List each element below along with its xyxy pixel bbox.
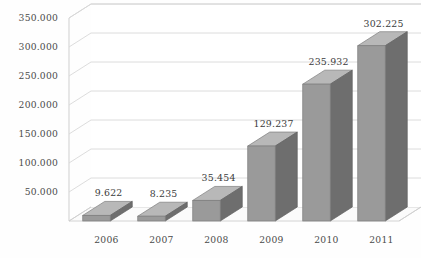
bar-chart-3d: 50.000100.000150.000200.000250.000300.00… xyxy=(0,0,421,258)
bar-front-face-2 xyxy=(193,200,221,221)
gridline-riser-3 xyxy=(69,91,91,105)
bar-side-face-5 xyxy=(385,32,407,221)
y-axis-tick-label-4: 250.000 xyxy=(19,70,58,81)
bar-value-label-2006: 9.622 xyxy=(95,187,123,198)
bar-front-face-0 xyxy=(83,215,111,221)
bar-front-face-4 xyxy=(303,84,331,221)
bar-value-label-2007: 8.235 xyxy=(150,188,178,199)
gridline-riser-6 xyxy=(69,4,91,18)
bar-side-face-4 xyxy=(330,70,352,221)
y-axis-tick-label-1: 100.000 xyxy=(19,157,58,168)
x-axis-tick-label-2007: 2007 xyxy=(149,234,173,245)
x-axis-tick-label-2006: 2006 xyxy=(94,234,118,245)
bar-value-label-2011: 302.225 xyxy=(364,18,404,29)
y-axis-tick-label-2: 150.000 xyxy=(19,128,58,139)
bar-2009[interactable] xyxy=(248,132,298,221)
gridline-riser-4 xyxy=(69,62,91,76)
gridline-riser-1 xyxy=(69,149,91,163)
x-axis-tick-label-2008: 2008 xyxy=(204,234,228,245)
gridline-riser-5 xyxy=(69,33,91,47)
bar-value-label-2010: 235.932 xyxy=(309,56,349,67)
x-axis-tick-label-2011: 2011 xyxy=(369,234,393,245)
bar-front-face-3 xyxy=(248,146,276,221)
bar-front-face-5 xyxy=(358,46,386,221)
x-axis-tick-label-2009: 2009 xyxy=(259,234,283,245)
bar-2011[interactable] xyxy=(358,32,408,221)
bar-front-face-1 xyxy=(138,216,166,221)
x-axis-tick-label-2010: 2010 xyxy=(314,234,338,245)
bar-value-label-2008: 35.454 xyxy=(202,172,236,183)
y-axis-tick-label-0: 50.000 xyxy=(25,186,58,197)
bar-2010[interactable] xyxy=(303,70,353,221)
chart-container: 50.000100.000150.000200.000250.000300.00… xyxy=(0,0,421,258)
bar-value-label-2009: 129.237 xyxy=(254,118,294,129)
y-axis-tick-label-3: 200.000 xyxy=(19,99,58,110)
y-axis-tick-label-5: 300.000 xyxy=(19,41,58,52)
bar-side-face-3 xyxy=(275,132,297,221)
y-axis-tick-label-6: 350.000 xyxy=(19,12,58,23)
gridline-riser-2 xyxy=(69,120,91,134)
gridline-riser-0 xyxy=(69,178,91,192)
